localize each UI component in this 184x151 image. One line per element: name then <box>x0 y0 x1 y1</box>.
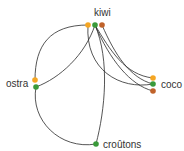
edge-ostra-croutons <box>35 87 96 145</box>
ostra-port-orange <box>32 77 38 83</box>
coco-port-green <box>150 81 156 87</box>
kiwi-port-brown <box>99 22 105 28</box>
edge-kiwi-ostra-green <box>36 25 95 87</box>
ostra-port-green <box>33 84 39 90</box>
croutons-port-green <box>93 141 99 147</box>
node-label-croutons: croûtons <box>103 139 141 150</box>
kiwi-port-green <box>92 22 98 28</box>
node-label-kiwi: kiwi <box>94 7 111 18</box>
node-label-ostra: ostra <box>6 78 29 89</box>
edge-kiwi-coco-green <box>95 25 153 78</box>
kiwi-port-orange <box>85 22 91 28</box>
coco-port-brown <box>150 88 156 94</box>
coco-port-orange <box>150 75 156 81</box>
network-diagram: kiwi ostra coco croûtons <box>0 0 184 151</box>
node-label-coco: coco <box>161 79 183 90</box>
